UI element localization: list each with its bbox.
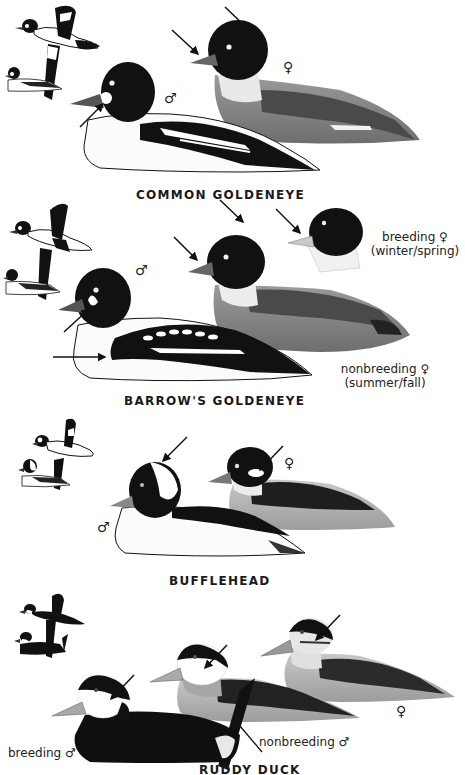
species-title-ruddy-duck: RUDDY DUCK: [199, 763, 301, 775]
ruddy-duck-breeding-male-label: breeding ♂: [8, 746, 76, 760]
bufflehead-male-symbol: ♂: [97, 519, 110, 535]
barrows-goldeneye-male-symbol: ♂: [135, 262, 148, 278]
barrows-goldeneye-small-swimming-icon: [3, 269, 60, 295]
ruddy-duck-group: [14, 594, 455, 770]
breeding-female-text: breeding ♀: [370, 230, 460, 244]
nonbreeding-season-text: (summer/fall): [335, 376, 435, 390]
barrows-goldeneye-group: [3, 200, 410, 381]
barrows-nonbreeding-female-label: nonbreeding ♀ (summer/fall): [335, 362, 435, 390]
species-title-bufflehead: BUFFLEHEAD: [169, 574, 271, 588]
common-goldeneye-female-symbol: ♀: [283, 59, 293, 75]
barrows-goldeneye-breeding-female-head-icon: [288, 208, 363, 272]
barrows-breeding-female-label: breeding ♀ (winter/spring): [370, 230, 460, 258]
ruddy-duck-small-swimming-icon: [14, 632, 68, 655]
ruddy-duck-nonbreeding-male-label: nonbreeding ♂: [259, 735, 349, 749]
bufflehead-female-symbol: ♀: [284, 455, 294, 471]
field-guide-plate: ♀ ♂ COMMON GOLDENEYE ♂ breeding ♀ (winte…: [0, 0, 465, 775]
nonbreeding-female-text: nonbreeding ♀: [335, 362, 435, 376]
species-title-common-goldeneye: COMMON GOLDENEYE: [136, 188, 305, 202]
ruddy-duck-female-symbol: ♀: [396, 703, 406, 719]
bufflehead-group: [18, 419, 395, 556]
species-title-barrows-goldeneye: BARROW'S GOLDENEYE: [124, 394, 305, 408]
breeding-season-text: (winter/spring): [370, 244, 460, 258]
common-goldeneye-group: [5, 6, 420, 172]
common-goldeneye-male-symbol: ♂: [164, 90, 177, 106]
